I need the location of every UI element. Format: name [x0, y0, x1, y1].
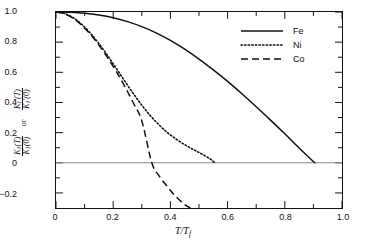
y-axis-denominator-secondary: K1′(0): [24, 88, 32, 110]
series-curve-co: [56, 12, 190, 208]
x-tick-label: 0.2: [93, 212, 133, 222]
legend-swatch-ni: [240, 40, 284, 50]
legend-item-co: Co: [240, 52, 305, 66]
y-tick-label: 0.8: [0, 36, 17, 46]
legend-swatch-fe: [240, 26, 284, 36]
y-axis-or-label: or: [18, 112, 28, 133]
x-tick-label: 0.6: [208, 212, 248, 222]
legend-label-co: Co: [293, 54, 305, 64]
y-axis-fraction-primary: K1(T) K1(0): [14, 135, 32, 155]
y-axis-fraction-secondary: K1′(T) K1′(0): [14, 88, 32, 110]
x-tick-label: 0.4: [150, 212, 190, 222]
y-axis-title: K1(T) K1(0) or K1′(T) K1′(0): [14, 47, 32, 197]
legend-item-ni: Ni: [240, 38, 305, 52]
y-tick-label: 1.0: [0, 6, 17, 16]
legend-item-fe: Fe: [240, 24, 305, 38]
legend-label-ni: Ni: [293, 40, 302, 50]
y-axis-denominator-primary: K1(0): [24, 135, 32, 155]
x-tick-label: 1.0: [323, 212, 363, 222]
legend-label-fe: Fe: [293, 26, 304, 36]
x-tick-label: 0.8: [265, 212, 305, 222]
series-curve-ni: [56, 12, 215, 163]
x-axis-title: T/Tf: [0, 225, 366, 238]
legend-swatch-co: [240, 54, 284, 64]
x-tick-label: 0: [35, 212, 75, 222]
legend: FeNiCo: [240, 24, 305, 66]
figure-container: 1.00.80.60.40.20−0.2 00.20.40.60.81.0 K1…: [0, 0, 366, 243]
